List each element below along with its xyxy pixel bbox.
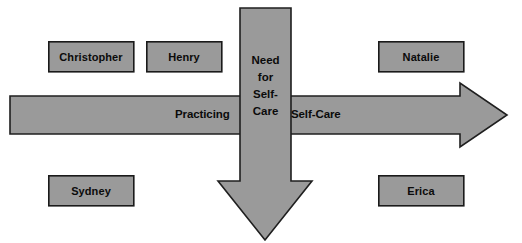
need-for-self-care-line-4: Care	[240, 103, 291, 120]
practicing-label: Practicing	[175, 108, 230, 120]
arrow-shapes-layer	[0, 0, 522, 243]
need-for-self-care-line-3: Self-	[240, 86, 291, 103]
box-christopher-label: Christopher	[48, 41, 134, 72]
box-natalie-label: Natalie	[378, 41, 464, 72]
need-for-self-care-label: Need for Self- Care	[240, 52, 291, 120]
box-erica-label: Erica	[378, 175, 464, 206]
self-care-label: Self-Care	[291, 108, 341, 120]
box-sydney-label: Sydney	[48, 175, 134, 206]
box-henry-label: Henry	[146, 41, 222, 72]
need-for-self-care-line-2: for	[240, 69, 291, 86]
diagram-canvas: Practicing Self-Care Need for Self- Care…	[0, 0, 522, 243]
need-for-self-care-line-1: Need	[240, 52, 291, 69]
